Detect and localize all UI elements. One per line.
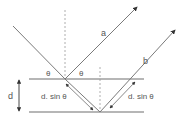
label-ray-a: a [101, 28, 106, 38]
diagram-canvas: a b θ θ d d. sin θ d. sin θ [0, 0, 184, 124]
label-theta-right: θ [79, 69, 84, 78]
label-path-left: d. sin θ [41, 92, 67, 101]
path-arrow-left [66, 84, 93, 110]
transmitted-ray [65, 79, 100, 112]
label-path-right: d. sin θ [128, 92, 154, 101]
label-theta-left: θ [46, 69, 51, 78]
label-ray-b: b [143, 56, 148, 66]
incident-ray [13, 26, 65, 79]
reflected-ray-a [65, 7, 137, 79]
bragg-diagram: a b θ θ d d. sin θ d. sin θ [0, 0, 184, 124]
label-spacing-d: d [8, 91, 13, 101]
